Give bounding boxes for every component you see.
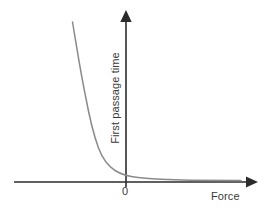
y-axis-arrowhead bbox=[120, 10, 131, 22]
y-axis-label: First passage time bbox=[109, 52, 121, 144]
chart-canvas bbox=[0, 0, 272, 208]
origin-tick-label: 0 bbox=[122, 185, 128, 197]
x-axis-label: Force bbox=[211, 190, 240, 202]
first-passage-time-force-chart: First passage time Force 0 bbox=[0, 0, 272, 208]
first-passage-time-curve bbox=[73, 22, 242, 181]
x-axis-arrowhead bbox=[246, 177, 258, 188]
